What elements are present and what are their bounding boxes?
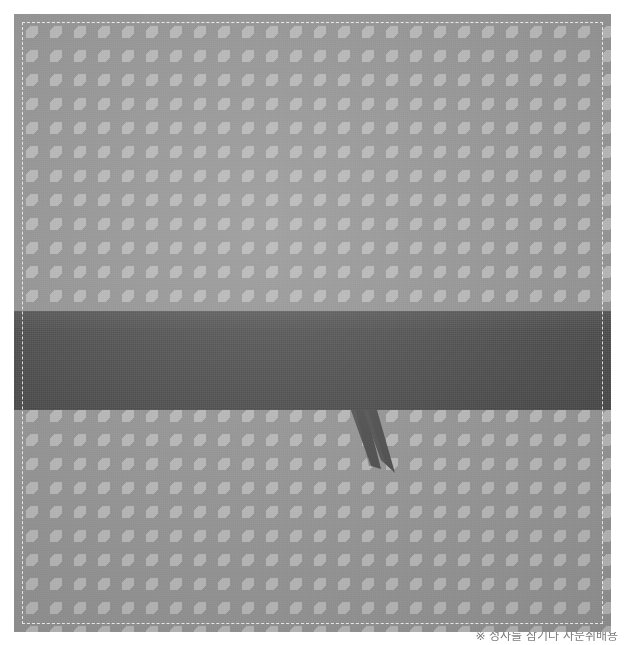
product-caption: ※ 정사를 참기나 사문취배용: [476, 632, 619, 644]
product-image-canvas: ※ 정사를 참기나 사문취배용: [0, 0, 624, 645]
left-ribbon-tail: [351, 410, 381, 469]
right-ribbon-tail: [363, 410, 395, 473]
houndstooth-fabric-sheet: [14, 14, 611, 632]
left-ribbon-tail-shade: [351, 410, 371, 466]
right-ribbon-tail-shade: [363, 410, 386, 464]
dark-band: [14, 311, 611, 410]
caption-clip-region: ※ 정사를 참기나 사문취배용: [0, 632, 624, 645]
